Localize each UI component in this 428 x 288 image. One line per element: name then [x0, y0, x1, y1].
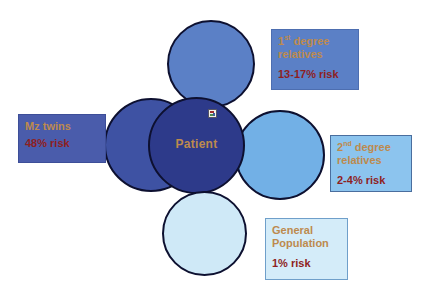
general-population-circle	[162, 191, 247, 276]
first-degree-relatives-circle	[167, 20, 255, 108]
mz-twins-risk: 48% risk	[25, 137, 99, 150]
second-degree-relatives-label: 2nd degree relatives	[337, 141, 405, 167]
general-population-label: General Population	[272, 224, 341, 250]
broken-image-placeholder-icon	[208, 109, 217, 118]
mz-twins-label: Mz twins	[25, 120, 99, 133]
second-degree-relatives-circle	[235, 110, 325, 200]
mz-twins-label-box: Mz twins 48% risk	[18, 114, 106, 163]
second-degree-relatives-risk: 2-4% risk	[337, 174, 405, 187]
second-degree-relatives-label-box: 2nd degree relatives 2-4% risk	[330, 135, 412, 192]
first-degree-relatives-risk: 13-17% risk	[278, 68, 352, 81]
first-degree-relatives-label-box: 1st degree relatives 13-17% risk	[271, 29, 359, 90]
familial-risk-diagram: Patient 1st degree relatives 13-17% risk…	[0, 0, 428, 288]
general-population-label-box: General Population 1% risk	[265, 218, 348, 280]
patient-label: Patient	[150, 137, 243, 151]
patient-circle: Patient	[148, 97, 245, 194]
general-population-risk: 1% risk	[272, 257, 341, 270]
first-degree-relatives-label: 1st degree relatives	[278, 35, 352, 61]
